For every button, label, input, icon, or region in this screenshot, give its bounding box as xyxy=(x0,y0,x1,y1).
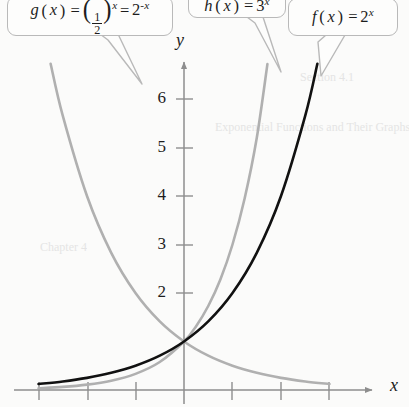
g-base-fraction: 12 xyxy=(92,11,102,37)
figure-container: Section 4.1 Exponential Functions and Th… xyxy=(0,0,409,407)
coordinate-plane xyxy=(0,0,409,407)
f-equation: f(x)=2x xyxy=(312,7,374,27)
g-alt-exponent: -x xyxy=(140,0,149,11)
g-equals-2: = xyxy=(117,1,132,20)
x-axis-label: x xyxy=(390,375,398,396)
y-tick-label-4: 4 xyxy=(144,185,166,205)
f-base: 2 xyxy=(360,7,368,26)
f-function-callout: f(x)=2x xyxy=(288,0,398,36)
curve-h-of-x xyxy=(39,64,268,388)
g-equation: g(x)=(12)x=2-x xyxy=(31,0,150,37)
y-tick-label-6: 6 xyxy=(144,88,166,108)
y-tick-label-2: 2 xyxy=(144,282,166,302)
h-fn-name: h xyxy=(204,0,212,15)
g-equals-1: = xyxy=(68,1,83,20)
g-fn-name: g xyxy=(31,1,39,20)
h-exponent: x xyxy=(265,0,270,7)
f-exponent: x xyxy=(369,6,374,18)
h-base: 3 xyxy=(256,0,264,15)
y-axis-label: y xyxy=(176,30,184,51)
h-function-callout: h(x)=3x xyxy=(188,0,286,18)
y-tick-label-5: 5 xyxy=(144,137,166,157)
y-tick-label-3: 3 xyxy=(144,234,166,254)
g-function-callout: g(x)=(12)x=2-x xyxy=(7,0,173,36)
callout-f-pointer xyxy=(318,35,345,76)
g-denominator: 2 xyxy=(92,24,102,36)
h-equation: h(x)=3x xyxy=(204,0,270,16)
callout-h-pointer xyxy=(247,17,281,72)
callout-g-pointer xyxy=(100,34,142,84)
g-numerator: 1 xyxy=(92,11,102,24)
